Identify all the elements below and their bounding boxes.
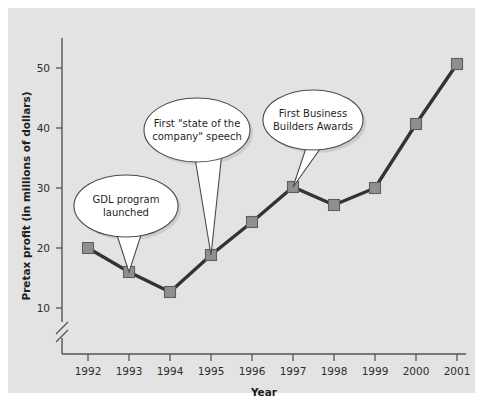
annotation-state-line2: company" speech xyxy=(152,131,242,142)
chart-figure: 50 40 30 20 10 1992 1993 1994 1995 1996 … xyxy=(0,0,483,402)
data-point-2001 xyxy=(452,59,463,70)
data-point-1994 xyxy=(165,287,176,298)
x-tick-label-1994: 1994 xyxy=(157,365,184,377)
y-tick-label-10: 10 xyxy=(37,302,50,314)
data-point-1992 xyxy=(83,243,94,254)
annotation-business-builders: First Business Builders Awards xyxy=(263,90,366,187)
annotation-gdl-line1: GDL program xyxy=(93,194,160,205)
data-point-1998 xyxy=(329,200,340,211)
x-tick-label-2001: 2001 xyxy=(444,365,471,377)
x-tick-label-1999: 1999 xyxy=(362,365,389,377)
annotation-gdl-program: GDL program launched xyxy=(74,175,181,272)
x-tick-label-1993: 1993 xyxy=(116,365,143,377)
data-point-1999 xyxy=(370,183,381,194)
annotation-state-tail xyxy=(195,152,222,255)
annotation-state-line1: First "state of the xyxy=(154,118,241,129)
y-ticks-group: 50 40 30 20 10 xyxy=(37,62,62,314)
y-tick-label-50: 50 xyxy=(37,62,50,74)
x-tick-label-1998: 1998 xyxy=(321,365,348,377)
x-tick-label-1997: 1997 xyxy=(280,365,307,377)
annotation-builders-bubble xyxy=(263,90,363,150)
annotation-builders-line1: First Business xyxy=(279,108,347,119)
data-point-1996 xyxy=(247,217,258,228)
line-chart: 50 40 30 20 10 1992 1993 1994 1995 1996 … xyxy=(0,0,483,402)
y-tick-label-30: 30 xyxy=(37,182,50,194)
y-axis-title: Pretax profit (in millions of dollars) xyxy=(20,91,32,300)
x-ticks-group: 1992 1993 1994 1995 1996 1997 1998 1999 … xyxy=(75,354,471,377)
annotation-state-bubble xyxy=(144,98,250,162)
data-point-2000 xyxy=(411,119,422,130)
x-tick-label-1996: 1996 xyxy=(239,365,266,377)
x-tick-label-1992: 1992 xyxy=(75,365,102,377)
annotation-gdl-bubble xyxy=(74,175,178,237)
annotation-builders-line2: Builders Awards xyxy=(273,121,353,132)
annotation-gdl-line2: launched xyxy=(103,207,149,218)
y-tick-label-40: 40 xyxy=(37,122,50,134)
y-tick-label-20: 20 xyxy=(37,242,50,254)
x-axis-title: Year xyxy=(250,386,278,398)
x-tick-label-1995: 1995 xyxy=(198,365,225,377)
x-tick-label-2000: 2000 xyxy=(403,365,430,377)
